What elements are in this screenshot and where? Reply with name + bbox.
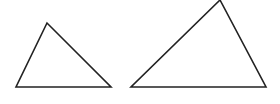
large-triangle [131, 0, 266, 87]
small-triangle [16, 23, 111, 87]
triangles-diagram [0, 0, 280, 104]
diagram-canvas [0, 0, 280, 104]
